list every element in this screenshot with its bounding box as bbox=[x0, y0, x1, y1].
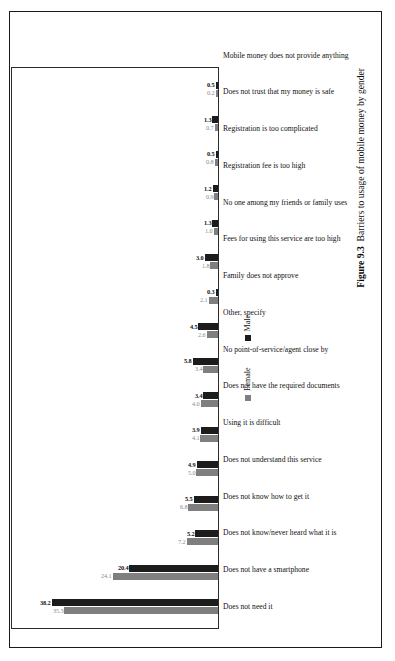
bar-value-label: 2.1 bbox=[200, 297, 208, 303]
bar-group: 3.45.8 bbox=[12, 348, 218, 383]
bar-value-label: 4.0 bbox=[192, 401, 200, 407]
bar-male[interactable]: 1.3 bbox=[212, 116, 218, 123]
bar-value-label: 4.5 bbox=[190, 324, 198, 330]
bar-male[interactable]: 5.8 bbox=[193, 358, 218, 365]
category-label-text: No point-of-service/agent close by bbox=[223, 346, 328, 354]
legend-swatch-female-icon bbox=[245, 395, 251, 401]
category-label: Does not know/never heard what it is bbox=[221, 515, 325, 552]
bar-value-label: 3.4 bbox=[195, 393, 203, 399]
bar-male[interactable]: 5.5 bbox=[194, 496, 218, 503]
bar-female[interactable]: 5.0 bbox=[196, 469, 218, 476]
legend-swatch-male-icon bbox=[245, 335, 251, 341]
bar-male[interactable]: 0.5 bbox=[216, 151, 218, 158]
bar-group: 4.03.4 bbox=[12, 383, 218, 418]
category-label-text: Registration is too complicated bbox=[223, 125, 318, 133]
bar-value-label: 1.3 bbox=[204, 220, 212, 226]
bar-male[interactable]: 0.3 bbox=[216, 289, 218, 296]
category-label-text: Using it is difficult bbox=[223, 419, 280, 427]
category-label-text: Does not understand this service bbox=[223, 456, 322, 464]
bar-female[interactable]: 0.7 bbox=[215, 124, 218, 131]
bar-value-label: 24.1 bbox=[101, 573, 112, 579]
bar-male[interactable]: 1.2 bbox=[213, 185, 218, 192]
bar-female[interactable]: 1.0 bbox=[214, 228, 218, 235]
bar-value-label: 5.0 bbox=[188, 470, 196, 476]
category-label: Family does not approve bbox=[221, 258, 325, 295]
bar-group: 0.80.5 bbox=[12, 141, 218, 176]
bar-male[interactable]: 4.5 bbox=[198, 323, 218, 330]
bar-series-container: 35.338.224.120.47.25.26.85.55.04.94.13.9… bbox=[12, 72, 218, 624]
bar-group: 1.01.3 bbox=[12, 210, 218, 245]
bar-female[interactable]: 3.4 bbox=[203, 366, 218, 373]
bar-female[interactable]: 2.1 bbox=[209, 297, 218, 304]
bar-male[interactable]: 3.0 bbox=[205, 254, 218, 261]
bar-value-label: 0.9 bbox=[206, 194, 214, 200]
bar-value-label: 1.2 bbox=[204, 186, 212, 192]
bar-value-label: 0.2 bbox=[207, 90, 215, 96]
bar-group: 2.64.5 bbox=[12, 314, 218, 349]
bar-female[interactable]: 0.9 bbox=[214, 193, 218, 200]
bar-male[interactable]: 3.9 bbox=[201, 427, 218, 434]
bar-value-label: 20.4 bbox=[118, 565, 129, 571]
bar-value-label: 1.8 bbox=[202, 263, 210, 269]
bar-group: 0.20.5 bbox=[12, 72, 218, 107]
bar-male[interactable]: 0.5 bbox=[216, 82, 218, 89]
bar-female[interactable]: 7.2 bbox=[187, 538, 218, 545]
bar-female[interactable]: 0.8 bbox=[215, 159, 218, 166]
figure-caption-text: Barriers to usage of mobile money by gen… bbox=[355, 68, 366, 241]
category-label-text: Does not have a smartphone bbox=[223, 566, 309, 574]
bar-male[interactable]: 4.9 bbox=[197, 461, 218, 468]
bar-male[interactable]: 1.3 bbox=[212, 220, 218, 227]
bar-group: 4.13.9 bbox=[12, 417, 218, 452]
bar-male[interactable]: 20.4 bbox=[129, 565, 218, 572]
legend-label-female: Female bbox=[243, 367, 252, 391]
figure-page-frame: 35.338.224.120.47.25.26.85.55.04.94.13.9… bbox=[9, 11, 382, 648]
chart-legend: Female Male bbox=[243, 315, 252, 401]
bar-value-label: 2.6 bbox=[198, 332, 206, 338]
bar-value-label: 5.8 bbox=[184, 358, 192, 364]
legend-item-female[interactable]: Female bbox=[243, 367, 252, 401]
category-label: Does not have a smartphone bbox=[221, 552, 325, 589]
bar-group: 35.338.2 bbox=[12, 590, 218, 625]
bar-female[interactable]: 2.6 bbox=[207, 331, 218, 338]
bar-group: 0.91.2 bbox=[12, 176, 218, 211]
bar-female[interactable]: 4.0 bbox=[201, 400, 218, 407]
bar-value-label: 0.7 bbox=[206, 125, 214, 131]
bar-group: 0.71.3 bbox=[12, 107, 218, 142]
bar-female[interactable]: 6.8 bbox=[188, 504, 218, 511]
bar-value-label: 5.2 bbox=[187, 531, 195, 537]
category-label-text: Fees for using this service are too high bbox=[223, 235, 340, 243]
bar-value-label: 3.0 bbox=[196, 255, 204, 261]
bar-group: 7.25.2 bbox=[12, 521, 218, 556]
bar-female[interactable]: 35.3 bbox=[64, 607, 218, 614]
bar-female[interactable]: 4.1 bbox=[200, 435, 218, 442]
chart-plot-area: 35.338.224.120.47.25.26.85.55.04.94.13.9… bbox=[11, 67, 219, 629]
category-label: Registration fee is too high bbox=[221, 147, 325, 184]
bar-value-label: 3.4 bbox=[195, 366, 203, 372]
rotated-figure-stage: 35.338.224.120.47.25.26.85.55.04.94.13.9… bbox=[11, 33, 329, 629]
legend-label-male: Male bbox=[243, 315, 252, 331]
bar-value-label: 4.1 bbox=[192, 435, 200, 441]
category-label-text: Does not know/never heard what it is bbox=[223, 529, 336, 537]
bar-male[interactable]: 38.2 bbox=[52, 599, 218, 606]
bar-female[interactable]: 0.2 bbox=[216, 90, 218, 97]
category-label: Fees for using this service are too high bbox=[221, 221, 325, 258]
category-label: Does not trust that my money is safe bbox=[221, 74, 325, 111]
bar-male[interactable]: 3.4 bbox=[203, 392, 218, 399]
bar-female[interactable]: 24.1 bbox=[113, 573, 218, 580]
bar-value-label: 38.2 bbox=[40, 600, 51, 606]
category-label-text: Does not have the required documents bbox=[223, 382, 340, 390]
category-label-text: Does not need it bbox=[223, 603, 273, 611]
bar-group: 6.85.5 bbox=[12, 486, 218, 521]
category-label: No one among my friends or family uses bbox=[221, 184, 325, 221]
category-label-text: Does not know how to get it bbox=[223, 493, 309, 501]
category-label: Mobile money does not provide anything bbox=[221, 37, 325, 74]
legend-item-male[interactable]: Male bbox=[243, 315, 252, 341]
bar-group: 5.04.9 bbox=[12, 452, 218, 487]
category-label-text: Family does not approve bbox=[223, 272, 298, 280]
bar-value-label: 1.0 bbox=[205, 228, 213, 234]
bar-group: 2.10.3 bbox=[12, 279, 218, 314]
figure-number: Figure 9.3 bbox=[355, 246, 366, 287]
figure-caption: Figure 9.3 Barriers to usage of mobile m… bbox=[356, 68, 367, 288]
bar-female[interactable]: 1.8 bbox=[210, 262, 218, 269]
bar-male[interactable]: 5.2 bbox=[195, 530, 218, 537]
